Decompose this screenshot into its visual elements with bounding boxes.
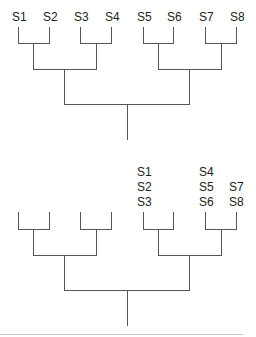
bottom-label: S1: [137, 165, 152, 179]
bottom-tree: [19, 212, 237, 326]
bottom-label: S7: [229, 180, 244, 194]
bottom-label: S4: [199, 165, 214, 179]
top-pair-s5-s6: [144, 27, 174, 44]
top-leaf-label: S6: [167, 10, 182, 24]
top-pair-s3-s4: [81, 27, 112, 44]
top-leaf-label: S3: [74, 10, 89, 24]
bottom-pair-2: [81, 212, 112, 230]
top-leaf-label: S4: [105, 10, 120, 24]
top-pair-s7-s8: [206, 27, 237, 44]
bottom-label: S6: [199, 195, 214, 209]
bottom-pair-3: [144, 212, 174, 230]
top-leaf-label: S2: [43, 10, 58, 24]
bottom-root-join: [65, 256, 190, 291]
bottom-pair-1: [19, 212, 50, 230]
top-clade-right: [159, 44, 222, 70]
top-tree: [19, 27, 237, 140]
top-leaf-label: S1: [12, 10, 27, 24]
bottom-label: S2: [137, 180, 152, 194]
bottom-separator-line: [0, 334, 243, 335]
top-pair-s1-s2: [19, 27, 50, 44]
dendrogram-canvas: [0, 0, 256, 337]
top-leaf-label: S7: [199, 10, 214, 24]
bottom-clade-left: [34, 230, 97, 256]
top-root-join: [65, 70, 190, 105]
top-leaf-label: S5: [137, 10, 152, 24]
top-clade-left: [34, 44, 97, 70]
bottom-label: S5: [199, 180, 214, 194]
bottom-label: S3: [137, 195, 152, 209]
bottom-label: S8: [229, 195, 244, 209]
top-leaf-label: S8: [230, 10, 245, 24]
bottom-pair-4: [206, 212, 237, 230]
bottom-clade-right: [159, 230, 222, 256]
